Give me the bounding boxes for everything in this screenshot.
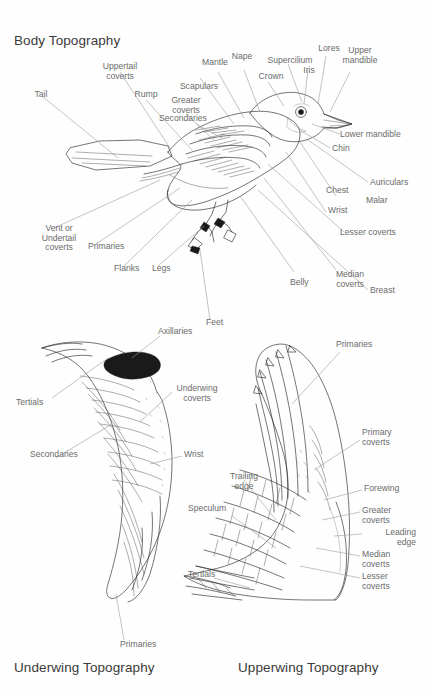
upperwing-label-greater-coverts: Greater coverts — [362, 506, 391, 525]
body-label-primaries: Primaries — [88, 242, 124, 252]
underwing-label-wrist: Wrist — [184, 450, 203, 460]
underwing-label-underwing-coverts: Underwing coverts — [168, 384, 226, 403]
upperwing-label-leading-edge: Leading edge — [352, 528, 416, 547]
underwing-topography-title: Underwing Topography — [14, 660, 155, 675]
body-label-lesser-coverts: Lesser coverts — [340, 228, 396, 238]
upperwing-label-trailing-edge: Trailing edge — [216, 472, 272, 491]
upperwing-label-speculum: Speculum — [188, 504, 226, 514]
underwing-label-secondaries: Secondaries — [30, 450, 78, 460]
body-label-chest: Chest — [326, 186, 348, 196]
body-label-median-coverts: Median coverts — [326, 270, 374, 289]
diagram-page: Body Topography Tail Uppertail coverts R… — [0, 0, 432, 693]
upperwing-label-lesser-coverts: Lesser coverts — [362, 572, 390, 591]
body-label-upper-mandible: Upper mandible — [336, 46, 384, 65]
upperwing-label-median-coverts: Median coverts — [362, 550, 390, 569]
underwing-leader-lines — [52, 336, 182, 640]
body-topography-title: Body Topography — [14, 33, 120, 48]
body-label-vent-or-undertail-coverts: Vent or Undertail coverts — [32, 224, 86, 253]
underwing-label-tertials: Tertials — [16, 398, 43, 408]
upperwing-topography-title: Upperwing Topography — [238, 660, 379, 675]
upperwing-label-primaries: Primaries — [336, 340, 372, 350]
body-label-feet: Feet — [206, 318, 223, 328]
body-label-wrist: Wrist — [328, 206, 347, 216]
body-label-crown: Crown — [250, 72, 292, 82]
underwing-illustration — [42, 342, 172, 602]
body-label-auriculars: Auriculars — [370, 178, 408, 188]
body-label-legs: Legs — [152, 264, 171, 274]
body-label-scapulars: Scapulars — [168, 82, 230, 92]
body-label-tail: Tail — [18, 90, 64, 100]
upperwing-label-forewing: Forewing — [364, 484, 399, 494]
upperwing-label-primary-coverts: Primary coverts — [362, 428, 392, 447]
underwing-label-primaries: Primaries — [120, 640, 156, 650]
body-label-chin: Chin — [332, 144, 350, 154]
body-label-malar: Malar — [366, 196, 388, 206]
body-label-breast: Breast — [370, 286, 395, 296]
body-label-flanks: Flanks — [114, 264, 139, 274]
body-label-iris: Iris — [296, 66, 322, 76]
underwing-label-axillaries: Axillaries — [158, 327, 192, 337]
body-label-secondaries: Secondaries — [144, 114, 222, 124]
body-label-uppertail-coverts: Uppertail coverts — [78, 62, 162, 81]
body-label-lower-mandible: Lower mandible — [340, 130, 401, 140]
upperwing-label-tertials: Tertials — [188, 570, 215, 580]
upperwing-leader-lines — [214, 352, 362, 588]
body-label-belly: Belly — [290, 278, 309, 288]
